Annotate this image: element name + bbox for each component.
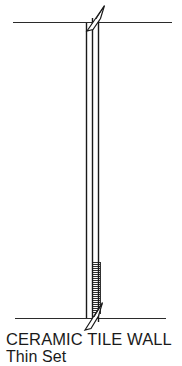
caption-subtitle: Thin Set (6, 348, 182, 366)
caption-title: CERAMIC TILE WALL (6, 330, 182, 348)
caption-block: CERAMIC TILE WALL Thin Set (6, 330, 182, 366)
thin-set-hatch (93, 262, 101, 314)
top-break-leader-icon (87, 6, 105, 32)
